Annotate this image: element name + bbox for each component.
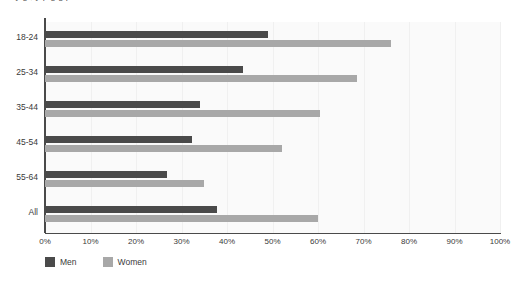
legend-item-men[interactable]: Men [45,257,77,267]
bar-men-all [45,206,217,213]
bar-women-35-44 [45,110,320,117]
clipped-headline-text: a a y g , y p g g p [0,0,523,5]
y-axis-label-45-54: 45-54 [0,137,38,147]
x-axis-tick-100pct: 100% [480,237,520,246]
bar-men-18-24 [45,31,268,38]
x-axis-tick-0pct: 0% [25,237,65,246]
y-axis-label-all: All [0,207,38,217]
category-group [45,59,500,94]
bar-men-45-54 [45,136,192,143]
bar-men-25-34 [45,66,243,73]
y-axis-label-25-34: 25-34 [0,67,38,77]
gridline [500,22,501,233]
x-axis-tick-70pct: 70% [344,237,384,246]
legend-label-women: Women [118,257,147,267]
bar-women-18-24 [45,40,391,47]
x-axis-tick-50pct: 50% [253,237,293,246]
category-group [45,164,500,199]
x-axis-tick-20pct: 20% [116,237,156,246]
x-axis-tick-80pct: 80% [389,237,429,246]
x-axis-tick-30pct: 30% [162,237,202,246]
category-group [45,199,500,234]
legend-swatch-women [103,257,113,267]
bar-chart: 0%10%20%30%40%50%60%70%80%90%100% MenWom… [0,14,523,284]
x-axis-tick-10pct: 10% [71,237,111,246]
x-axis-tick-40pct: 40% [207,237,247,246]
bar-women-25-34 [45,75,357,82]
category-group [45,24,500,59]
chart-legend: MenWomen [45,257,147,267]
y-axis-label-35-44: 35-44 [0,102,38,112]
x-axis-tick-90pct: 90% [435,237,475,246]
category-group [45,94,500,129]
bar-women-all [45,215,318,222]
bar-women-45-54 [45,145,282,152]
x-axis-tick-60pct: 60% [298,237,338,246]
bar-men-55-64 [45,171,167,178]
legend-swatch-men [45,257,55,267]
bar-women-55-64 [45,180,204,187]
legend-label-men: Men [60,257,77,267]
y-axis-label-55-64: 55-64 [0,172,38,182]
legend-item-women[interactable]: Women [103,257,147,267]
y-axis-label-18-24: 18-24 [0,32,38,42]
category-group [45,129,500,164]
bar-men-35-44 [45,101,200,108]
